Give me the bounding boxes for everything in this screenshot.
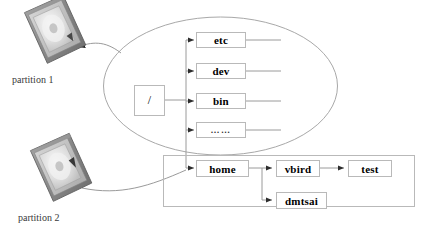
node-home[interactable]: home (196, 160, 249, 177)
node-root[interactable]: / (134, 85, 165, 116)
node-test[interactable]: test (348, 160, 392, 177)
partition-1-label: partition 1 (12, 74, 53, 85)
hard-disk-icon-partition-2 (29, 131, 94, 203)
hard-disk-icon-partition-1 (23, 0, 88, 66)
node-ellipsis[interactable]: …… (196, 122, 246, 138)
partition-2-label: partition 2 (18, 212, 59, 223)
node-dev[interactable]: dev (196, 63, 246, 79)
node-bin[interactable]: bin (196, 93, 246, 109)
filesystem-partition-diagram: partition 1 partition 2 / etc dev bin ……… (0, 0, 428, 235)
node-dmtsai[interactable]: dmtsai (276, 192, 327, 209)
node-vbird[interactable]: vbird (276, 160, 320, 177)
node-etc[interactable]: etc (196, 32, 246, 48)
